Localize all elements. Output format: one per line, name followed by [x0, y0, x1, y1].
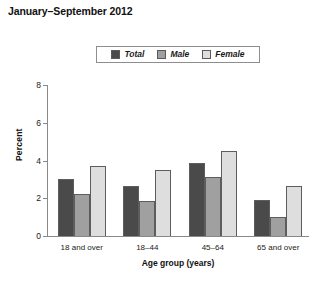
y-tick-label: 4 [36, 156, 41, 166]
bar-total [58, 179, 74, 236]
chart-figure: January–September 2012 TotalMaleFemale 0… [0, 0, 323, 286]
bars [254, 85, 302, 236]
legend-swatch-icon [202, 50, 211, 59]
chart-legend: TotalMaleFemale [96, 46, 260, 63]
y-tick-mark [43, 123, 47, 124]
bar-female [90, 166, 106, 236]
bars [123, 85, 171, 236]
bar-male [205, 177, 221, 236]
y-tick-mark [43, 236, 47, 237]
bar-male [270, 217, 286, 236]
bar-total [189, 163, 205, 236]
y-tick-label: 6 [36, 118, 41, 128]
y-tick-label: 0 [36, 231, 41, 241]
bars [58, 85, 106, 236]
x-axis-title: Age group (years) [142, 258, 215, 268]
y-tick-mark [43, 198, 47, 199]
legend-item-total: Total [111, 50, 144, 59]
bars [189, 85, 237, 236]
legend-label: Female [215, 50, 244, 59]
legend-label: Total [124, 50, 144, 59]
legend-swatch-icon [157, 50, 166, 59]
y-tick-mark [43, 161, 47, 162]
legend-label: Male [170, 50, 189, 59]
bar-total [123, 186, 139, 236]
bar-group [189, 85, 237, 236]
x-tick-label: 45–64 [202, 243, 224, 252]
bar-group [254, 85, 302, 236]
plot-area: 02468 18 and over18–4445–6465 and over A… [47, 85, 309, 237]
bar-female [286, 186, 302, 236]
y-tick-label: 2 [36, 193, 41, 203]
bar-female [155, 170, 171, 236]
x-axis-line [47, 236, 309, 237]
bar-female [221, 151, 237, 236]
y-tick-mark [43, 85, 47, 86]
bar-male [139, 201, 155, 236]
legend-item-male: Male [157, 50, 189, 59]
bar-total [254, 200, 270, 236]
bar-male [74, 194, 90, 236]
bar-group [58, 85, 106, 236]
legend-swatch-icon [111, 50, 120, 59]
x-tick-label: 65 and over [257, 243, 299, 252]
x-tick-label: 18–44 [136, 243, 158, 252]
y-axis-title: Percent [14, 128, 24, 161]
chart-title: January–September 2012 [8, 5, 132, 17]
y-tick-label: 8 [36, 80, 41, 90]
y-axis-line [47, 85, 48, 237]
bar-group [123, 85, 171, 236]
x-tick-label: 18 and over [61, 243, 103, 252]
legend-item-female: Female [202, 50, 244, 59]
